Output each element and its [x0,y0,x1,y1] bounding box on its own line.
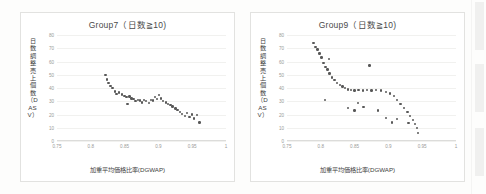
scan-streak [475,128,484,176]
data-point [362,89,364,91]
data-point [409,115,411,117]
y-axis-tick-label: 20 [49,112,54,117]
data-point [380,89,382,91]
scan-streak [475,64,484,112]
y-axis-tick-label: 30 [49,99,54,104]
gridline-horizontal [287,62,456,63]
data-point [347,88,349,90]
scan-fold-line [471,0,472,194]
data-point [416,127,418,129]
data-point [403,107,405,109]
x-axis-label: 加重平均価格比率(DGWAP) [251,165,464,174]
gridline-horizontal [57,48,226,49]
gridline-horizontal [287,128,456,129]
x-axis-tick-label: 1 [225,144,228,149]
data-point [393,95,395,97]
gridline-horizontal [57,115,226,116]
plot-area: 010203040506070800.750.80.850.90.951 [57,35,226,141]
data-point [107,82,109,84]
gridline-horizontal [57,75,226,76]
x-axis-tick-label: 0.9 [155,144,161,149]
chart-title: Group7（日数≧10) [21,18,234,30]
y-axis-tick-label: 60 [49,59,54,64]
data-point [328,58,330,60]
y-axis-tick-label: 0 [51,139,54,144]
x-axis-tick-label: 0.95 [188,144,197,149]
y-axis-tick-label: 10 [279,125,284,130]
x-axis-tick-label: 1 [455,144,458,149]
y-axis-tick-label: 40 [49,86,54,91]
scan-streak [475,2,484,50]
data-point [336,82,338,84]
data-point [357,102,359,104]
data-point [156,98,158,100]
data-point [148,102,150,104]
data-point [353,89,355,91]
data-point [316,48,318,50]
y-axis-tick-label: 80 [49,33,54,38]
gridline-horizontal [287,75,456,76]
data-point [399,103,401,105]
gridline-horizontal [57,128,226,129]
data-point [111,87,113,89]
y-axis-tick-label: 30 [279,99,284,104]
data-point [375,89,377,91]
x-axis-tick-label: 0.85 [120,144,129,149]
data-point [104,74,106,76]
gridline-horizontal [287,101,456,102]
data-point [362,106,364,108]
data-point [406,111,408,113]
gridline-horizontal [57,88,226,89]
data-point [357,89,359,91]
y-axis-tick-label: 80 [279,33,284,38]
y-axis-tick-label: 40 [279,86,284,91]
data-point [407,122,409,124]
plot-area: 010203040506070800.750.80.850.90.951 [287,35,456,141]
data-point [333,79,335,81]
data-point [412,119,414,121]
data-point [414,123,416,125]
chart-group9: Group9（日数≧10) 日数調整売上個数（DASV） 加重平均価格比率(DG… [250,12,465,182]
data-point [368,64,370,66]
chart-group7: Group7（日数≧10) 日数調整売上個数（DASV） 加重平均価格比率(DG… [20,12,235,182]
data-point [370,89,372,91]
gridline-horizontal [287,48,456,49]
data-point [366,89,368,91]
x-axis-tick-label: 0.8 [88,144,94,149]
x-axis-tick-label: 0.75 [283,144,292,149]
x-axis-line [57,140,226,141]
data-point [196,114,198,116]
x-axis-tick-label: 0.8 [318,144,324,149]
data-point [385,91,387,93]
data-point [318,52,320,54]
data-point [417,132,419,134]
y-axis-tick-label: 50 [49,72,54,77]
y-axis-tick-label: 0 [281,139,284,144]
data-point [326,68,328,70]
data-point [396,118,398,120]
data-point [312,42,314,44]
data-point [188,116,190,118]
data-point [158,94,160,96]
y-axis-tick-label: 10 [49,125,54,130]
data-point [320,56,322,58]
data-point [328,72,330,74]
data-point [198,121,200,123]
gridline-horizontal [57,141,226,142]
gridline-horizontal [287,141,456,142]
data-point [126,103,128,105]
gridline-horizontal [287,35,456,36]
x-axis-tick-label: 0.9 [385,144,391,149]
x-axis-line [287,140,456,141]
y-axis-tick-label: 20 [279,112,284,117]
x-axis-tick-label: 0.95 [418,144,427,149]
data-point [353,109,355,111]
data-point [377,109,379,111]
chart-title: Group9（日数≧10) [251,18,464,30]
gridline-horizontal [287,115,456,116]
data-point [106,78,108,80]
data-point [389,92,391,94]
data-point [322,62,324,64]
data-point [391,121,393,123]
x-axis-tick-label: 0.85 [350,144,359,149]
